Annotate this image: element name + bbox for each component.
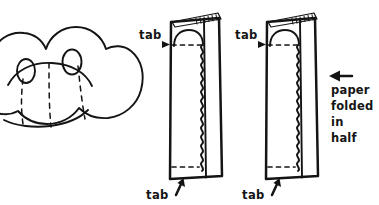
- frog-body-blob: [0, 27, 143, 127]
- label-note-line-3: in: [331, 115, 344, 129]
- folded-paper-right: [266, 13, 318, 179]
- diagram-canvas: tab tab tab tab paper folded in half: [0, 0, 379, 205]
- sheet-left-body: [170, 18, 222, 179]
- diagram-svg: tab tab tab tab paper folded in half: [0, 0, 379, 205]
- label-note-line-1: paper: [331, 83, 370, 97]
- sheet-right-wavy-cut: [297, 45, 299, 171]
- sheet-left-head-bump: [174, 30, 203, 46]
- label-tab-top-left: tab: [139, 28, 162, 42]
- note-arrow-left-icon: [329, 71, 352, 82]
- label-tab-bottom-right: tab: [242, 188, 265, 202]
- blob-fold-line-2: [49, 63, 51, 127]
- folded-paper-left: [170, 13, 222, 179]
- sheet-right-fold-spine: [300, 21, 302, 178]
- label-note-line-4: half: [331, 131, 357, 145]
- tab-arrow-bottom-left-icon: [176, 178, 185, 195]
- sheet-left-wavy-cut: [201, 45, 203, 171]
- label-note-line-2: folded: [331, 99, 373, 113]
- tab-arrow-bottom-right-icon: [272, 178, 281, 195]
- sheet-right-head-bump: [270, 30, 299, 46]
- label-tab-top-right: tab: [235, 28, 258, 42]
- tab-arrow-top-right-icon: [258, 41, 266, 48]
- sheet-right-body: [266, 18, 318, 179]
- sheet-left-fold-spine: [204, 21, 206, 178]
- label-tab-bottom-left: tab: [146, 188, 169, 202]
- tab-arrow-top-left-icon: [162, 41, 170, 48]
- blob-snout-arc: [8, 63, 92, 86]
- blob-fold-line-1: [22, 79, 24, 124]
